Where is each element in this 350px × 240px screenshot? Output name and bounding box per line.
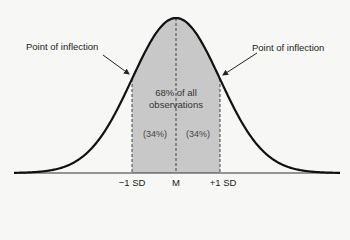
center-label: 68% of all observations: [136, 87, 216, 111]
axis-label-plus-1sd: +1 SD: [210, 177, 237, 188]
center-label-line1: 68% of all: [136, 87, 216, 99]
left-percent-label: (34%): [143, 129, 167, 139]
right-inflection-label: Point of inflection: [252, 42, 324, 53]
right-percent-label: (34%): [186, 129, 210, 139]
axis-label-mean: M: [172, 177, 180, 188]
right-inflection-arrow-icon: [223, 53, 257, 75]
center-label-line2: observations: [136, 99, 216, 111]
left-inflection-label: Point of inflection: [26, 41, 98, 52]
left-inflection-arrow-icon: [103, 55, 129, 74]
axis-label-minus-1sd: −1 SD: [119, 177, 146, 188]
